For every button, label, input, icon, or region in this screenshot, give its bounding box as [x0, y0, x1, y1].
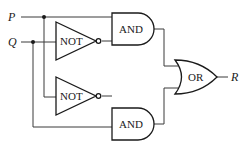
not-gate-2: NOT: [56, 77, 101, 115]
and-gate-1: AND: [112, 13, 154, 45]
wire-and2-to-or: [153, 88, 178, 124]
not-gate-2-label: NOT: [60, 90, 83, 102]
and-gate-1-label: AND: [119, 23, 143, 35]
junction-q: [31, 40, 35, 44]
and-gate-2-label: AND: [119, 118, 143, 130]
input-label-p: P: [7, 10, 16, 24]
output-label-r: R: [230, 70, 239, 84]
logic-circuit-diagram: P Q R NOT NOT AND AND OR: [0, 0, 246, 146]
not-gate-1: NOT: [56, 22, 101, 60]
not-gate-1-label: NOT: [60, 35, 83, 47]
and-gate-2: AND: [112, 108, 154, 140]
input-label-q: Q: [8, 35, 17, 49]
wire-p-to-not2: [44, 17, 56, 97]
or-gate: OR: [175, 60, 217, 94]
junction-p: [42, 15, 46, 19]
or-gate-label: OR: [188, 71, 204, 83]
wire-and1-to-or: [153, 29, 178, 66]
